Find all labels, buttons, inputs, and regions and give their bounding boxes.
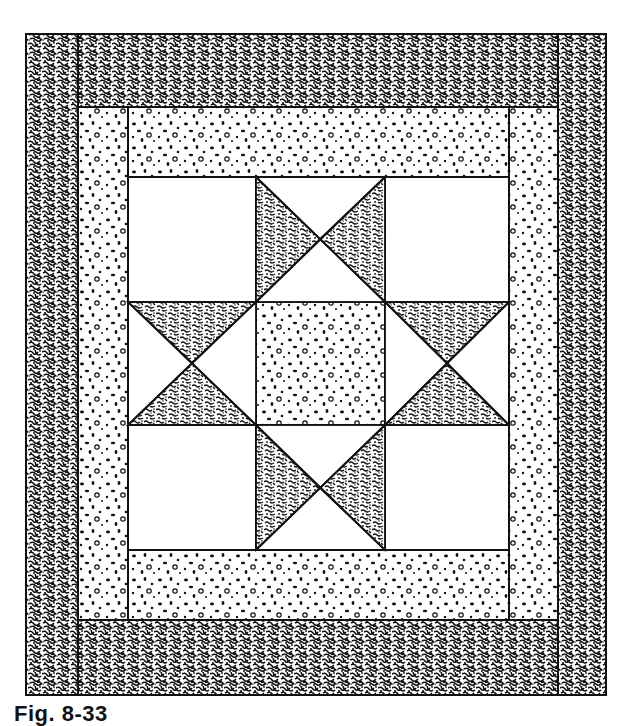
center-square [256, 302, 385, 425]
corner-square-top-right [385, 177, 509, 302]
hourglass-top [256, 177, 385, 302]
corner-square-bottom-right [385, 425, 509, 550]
hourglass-left [128, 302, 256, 425]
ohio-star-block [128, 177, 509, 550]
hourglass-right [385, 302, 509, 425]
inner-border-left [78, 107, 128, 620]
inner-border-top [128, 107, 509, 177]
outer-border-top [78, 34, 558, 107]
inner-border-bottom [128, 550, 509, 620]
corner-square-bottom-left [128, 425, 256, 550]
hourglass-bottom [256, 425, 385, 550]
inner-border-right [509, 107, 558, 620]
corner-square-top-left [128, 177, 256, 302]
outer-border-right [558, 34, 606, 695]
outer-border-left [26, 34, 78, 695]
figure-caption: Fig. 8-33 [14, 703, 108, 725]
outer-border-bottom [78, 620, 558, 695]
